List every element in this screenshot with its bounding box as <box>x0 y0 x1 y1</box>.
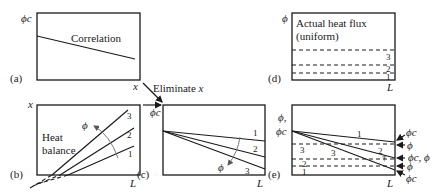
uniform-subtitle: (uniform) <box>296 30 339 43</box>
heat-balance-line-1 <box>68 146 134 175</box>
phi-arrow-label: ϕ <box>82 119 88 131</box>
line-label-3: 3 <box>127 111 132 121</box>
phi-arrow-label: ϕ <box>218 161 224 173</box>
line-label-2: 2 <box>253 144 258 154</box>
panel-b-y-axis-label: x <box>27 98 33 110</box>
phic-line-3 <box>163 131 265 169</box>
panel-d: ϕ Actual heat flux (uniform) 3 2 1 (d) L <box>268 12 395 93</box>
line-label-1: 1 <box>357 129 362 139</box>
dashed-label-3: 3 <box>300 145 305 155</box>
panel-e-y-axis-label-phic: ϕc <box>276 125 287 137</box>
phi-increase-arrow-icon <box>228 137 240 165</box>
annotation-arrow-icon <box>397 171 405 175</box>
annotation-phic-1: ϕc <box>406 126 417 138</box>
eliminate-label: Eliminate x <box>153 82 204 94</box>
annotation-phi-1: ϕ <box>407 139 413 151</box>
phi-increase-arrow-icon <box>94 126 118 158</box>
panel-a-x-axis-label: x <box>132 80 138 92</box>
panel-c-x-axis-label: L <box>256 177 263 189</box>
panel-a-frame <box>37 13 140 80</box>
panel-c-tag: (c) <box>137 168 150 181</box>
panel-e-tag: (e) <box>268 168 281 181</box>
panel-c-y-axis-label: ϕc <box>150 106 161 118</box>
panel-a: ϕc Correlation (a) x <box>10 12 140 92</box>
panel-c: ϕ 1 2 3 ϕc (c) L <box>137 105 265 189</box>
panel-e-y-axis-label-phi: ϕ, <box>278 111 287 123</box>
line-label-3: 3 <box>331 148 336 158</box>
eliminate-x-connector: Eliminate x <box>143 82 204 105</box>
level-label-3: 3 <box>386 52 391 62</box>
annotation-arrow-icon <box>397 135 405 140</box>
line-label-1: 1 <box>253 128 258 138</box>
correlation-label: Correlation <box>71 32 122 44</box>
line-label-2: 2 <box>127 130 132 140</box>
annotation-phic-2: ϕc <box>406 172 417 184</box>
panel-e-x-axis-label: L <box>386 177 393 189</box>
annotation-phi-2: ϕ <box>407 160 413 172</box>
panel-d-x-axis-label: L <box>386 81 393 93</box>
phic-line-2 <box>163 131 265 157</box>
panel-b-tag: (b) <box>10 168 23 181</box>
actual-heat-flux-title: Actual heat flux <box>296 17 367 29</box>
phic-line-1 <box>163 131 265 141</box>
panel-d-tag: (d) <box>268 72 281 85</box>
line-label-3: 3 <box>245 166 250 176</box>
panel-e: 1 2 3 3 2 1 ϕ, ϕc (e) L † ϕc ϕ ϕc, ϕ ϕ ϕ… <box>268 105 430 189</box>
panel-d-y-axis-label: ϕ <box>282 12 288 24</box>
balance-label: balance <box>42 144 76 156</box>
dashed-label-1: 1 <box>302 167 307 177</box>
heat-label: Heat <box>42 131 63 143</box>
line-label-1: 1 <box>128 149 133 159</box>
panel-a-tag: (a) <box>10 72 23 85</box>
match-marker: † <box>382 153 387 163</box>
panel-b-x-axis-label: L <box>129 177 136 189</box>
panel-a-y-axis-label: ϕc <box>21 12 32 24</box>
panel-b: ϕ 3 2 1 Heat balance x (b) L <box>10 98 140 189</box>
figure-canvas: ϕc Correlation (a) x Eliminate x ϕ 3 2 1… <box>0 0 439 195</box>
